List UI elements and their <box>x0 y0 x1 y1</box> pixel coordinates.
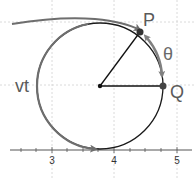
label-vt: vt <box>15 76 29 96</box>
radius-to-P <box>100 32 140 86</box>
label-Q: Q <box>170 82 184 102</box>
tick-label-5: 5 <box>174 155 180 166</box>
theta-arc <box>147 38 162 76</box>
tick-label-4: 4 <box>111 155 117 166</box>
arc-length-path <box>37 24 96 149</box>
center-point <box>98 84 102 88</box>
label-theta: θ <box>163 44 173 64</box>
grid <box>0 0 195 180</box>
point-Q <box>160 83 167 90</box>
rolling-circle-diagram: 3 4 5 P Q θ vt <box>0 0 195 180</box>
x-axis: 3 4 5 <box>10 147 192 166</box>
label-P: P <box>143 10 155 30</box>
tick-label-3: 3 <box>49 155 55 166</box>
